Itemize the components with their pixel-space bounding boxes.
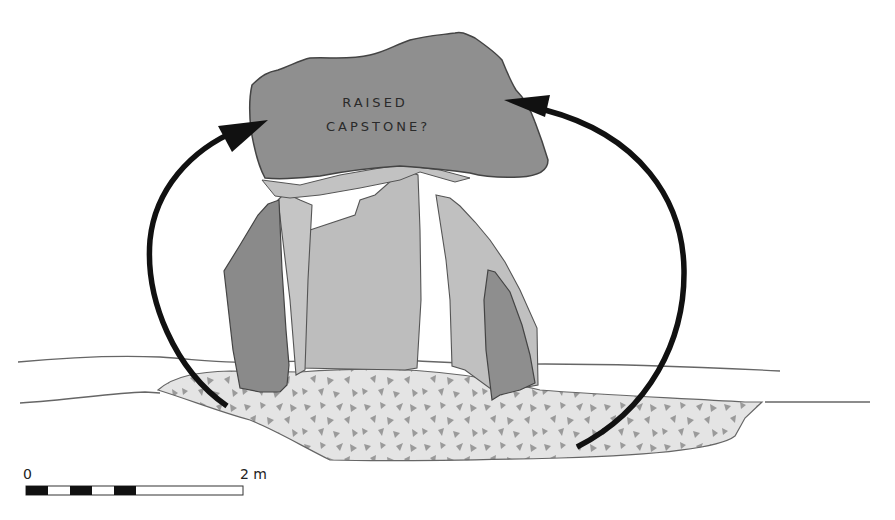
left-orthostat-dark [224,200,289,392]
dolmen-diagram: RAISED CAPSTONE? 0 2 m [0,0,895,520]
center-orthostat [300,172,421,370]
scale-bar: 0 2 m [23,466,267,495]
scale-bar-start-label: 0 [23,466,32,482]
scale-bar-end-label: 2 m [240,466,267,482]
capstone-label-line2: CAPSTONE? [326,119,430,134]
capstone-label-line1: RAISED [342,95,408,110]
ground-surface-lower-line [20,392,160,403]
